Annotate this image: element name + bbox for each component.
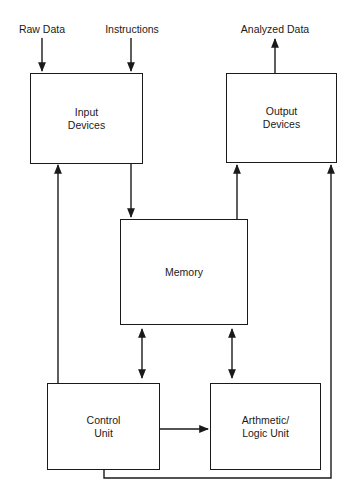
control-unit-label-line1: Control: [87, 414, 121, 427]
input-devices-label-line2: Devices: [68, 119, 105, 132]
input-devices-box: Input Devices: [30, 73, 143, 164]
arithmetic-logic-unit-box: Arthmetic/ Logic Unit: [210, 383, 321, 470]
memory-box: Memory: [120, 219, 248, 325]
alu-label-line2: Logic Unit: [242, 427, 289, 440]
memory-label: Memory: [165, 266, 203, 279]
analyzed-data-label: Analyzed Data: [241, 23, 309, 35]
output-devices-label-line1: Output: [263, 105, 300, 118]
raw-data-label: Raw Data: [19, 23, 65, 35]
control-unit-label-line2: Unit: [87, 427, 121, 440]
control-unit-box: Control Unit: [47, 383, 160, 470]
input-devices-label-line1: Input: [68, 106, 105, 119]
output-devices-label-line2: Devices: [263, 118, 300, 131]
output-devices-box: Output Devices: [226, 73, 337, 163]
alu-label-line1: Arthmetic/: [242, 414, 289, 427]
instructions-label: Instructions: [105, 23, 159, 35]
